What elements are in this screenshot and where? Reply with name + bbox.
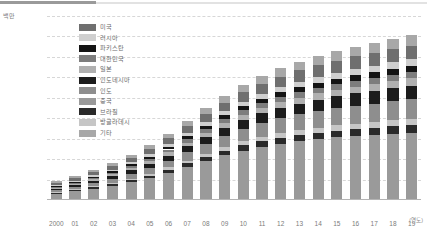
bar-segment <box>69 178 80 181</box>
bar-segment <box>350 136 361 200</box>
bar-segment <box>256 108 267 113</box>
bar-segment <box>144 149 155 154</box>
bar-segment <box>219 136 230 147</box>
x-axis-tick-label: 15 <box>328 220 347 227</box>
bar-segment <box>126 174 137 179</box>
legend-item[interactable]: 일본 <box>79 64 149 75</box>
bar-segment <box>107 166 118 170</box>
bar-segment <box>238 102 249 107</box>
bar-segment <box>387 81 398 88</box>
bar-segment <box>182 161 193 164</box>
legend-item[interactable]: 인도 <box>79 86 149 97</box>
bar-segment <box>313 65 324 77</box>
bar-segment <box>275 108 286 118</box>
legend-swatch-icon <box>79 130 96 137</box>
x-axis-tick-label: 13 <box>290 220 309 227</box>
bar-segment <box>200 137 211 144</box>
bar-segment <box>275 92 286 97</box>
bar-segment <box>406 72 417 78</box>
legend-item[interactable]: 미국 <box>79 22 149 33</box>
legend-swatch-icon <box>79 66 96 73</box>
bar-segment <box>69 190 80 191</box>
bar-segment <box>331 73 342 79</box>
bar-segment <box>200 157 211 161</box>
bar-column <box>238 85 249 200</box>
bar-segment <box>107 170 118 172</box>
bar-segment <box>219 151 230 156</box>
bar-segment <box>313 139 324 200</box>
bar-segment <box>387 75 398 81</box>
bar-segment <box>200 129 211 133</box>
bar-segment <box>144 157 155 159</box>
bar-segment <box>163 147 174 149</box>
bar-segment <box>69 182 80 183</box>
bar-segment <box>387 62 398 68</box>
bar-segment <box>182 126 193 133</box>
legend-item[interactable]: 방글라데시 <box>79 117 149 128</box>
legend-item-label: 방글라데시 <box>100 117 130 128</box>
bar-segment <box>200 154 211 157</box>
bar-segment <box>51 190 62 192</box>
bar-segment <box>350 47 361 57</box>
x-axis-unit-label: (연도) <box>409 216 423 224</box>
bar-segment <box>387 49 398 62</box>
bar-segment <box>126 158 137 162</box>
bar-segment <box>275 68 286 76</box>
bar-segment <box>51 192 62 193</box>
bar-segment <box>369 122 380 128</box>
bar-segment <box>350 75 361 81</box>
bar-segment <box>144 145 155 149</box>
bar-segment <box>350 129 361 136</box>
bar-column <box>107 163 118 200</box>
bar-segment <box>144 178 155 200</box>
bar-segment <box>294 141 305 200</box>
x-axis-tick-label: 06 <box>159 220 178 227</box>
bar-segment <box>387 101 398 120</box>
legend-item[interactable]: 러시아 <box>79 33 149 44</box>
legend-item[interactable]: 파키스탄 <box>79 43 149 54</box>
bar-segment <box>144 154 155 156</box>
bar-segment <box>219 115 230 119</box>
bar-segment <box>88 177 99 178</box>
bar-segment <box>69 181 80 182</box>
bar-segment <box>182 143 193 147</box>
bar-segment <box>275 87 286 92</box>
legend-item[interactable]: 인도네시아 <box>79 75 149 86</box>
bar-segment <box>406 119 417 125</box>
chart-legend: 미국러시아파키스탄대한민국일본인도네시아인도중국브라질방글라데시기타 <box>79 22 149 139</box>
bar-segment <box>182 136 193 139</box>
bar-segment <box>256 123 267 137</box>
x-axis-tick-label: 05 <box>141 220 160 227</box>
bar-segment <box>350 93 361 106</box>
bar-segment <box>107 171 118 172</box>
bar-column <box>88 170 99 200</box>
bar-segment <box>200 114 211 122</box>
bar-segment <box>313 93 324 99</box>
bar-segment <box>126 155 137 158</box>
bar-column <box>387 39 398 200</box>
bar-segment <box>88 179 99 181</box>
y-axis-unit-label: 백만 <box>3 11 15 20</box>
bar-segment <box>275 77 286 88</box>
legend-swatch-icon <box>79 45 96 52</box>
bar-segment <box>275 97 286 102</box>
legend-item[interactable]: 브라질 <box>79 107 149 118</box>
bar-segment <box>51 187 62 188</box>
bar-segment <box>219 119 230 123</box>
bar-segment <box>369 43 380 53</box>
legend-item[interactable]: 대한민국 <box>79 54 149 65</box>
bar-segment <box>88 186 99 187</box>
legend-item-label: 일본 <box>100 64 112 75</box>
bar-segment <box>406 59 417 65</box>
legend-item-label: 인도 <box>100 86 112 97</box>
bar-segment <box>350 69 361 75</box>
bar-segment <box>126 166 137 168</box>
bar-segment <box>107 184 118 186</box>
legend-item[interactable]: 기타 <box>79 128 149 139</box>
bar-segment <box>182 167 193 200</box>
bar-segment <box>163 138 174 144</box>
bar-segment <box>163 150 174 153</box>
bar-segment <box>294 70 305 81</box>
legend-item[interactable]: 중국 <box>79 96 149 107</box>
bar-segment <box>88 175 99 176</box>
